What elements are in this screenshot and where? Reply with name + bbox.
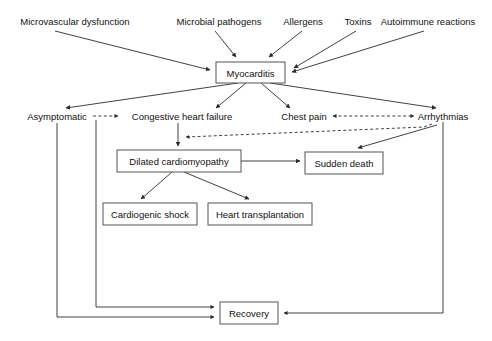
node-recovery-label: Recovery xyxy=(229,308,269,319)
edge-arrhythmias-to-dcm xyxy=(186,124,432,137)
node-dilated-cardiomyopathy-label: Dilated cardiomyopathy xyxy=(129,156,229,167)
label-asymptomatic: Asymptomatic xyxy=(27,111,87,122)
node-cardiogenic-shock-label: Cardiogenic shock xyxy=(111,209,189,220)
edge-toxins-to-myocarditis xyxy=(294,31,356,68)
edge-allergens-to-myocarditis xyxy=(269,31,302,57)
label-autoimmune-reactions: Autoimmune reactions xyxy=(381,16,476,27)
edge-microbial-to-myocarditis xyxy=(215,31,236,57)
edge-myocarditis-to-arrhythmias xyxy=(270,83,436,108)
label-allergens: Allergens xyxy=(283,16,323,27)
label-arrhythmias: Arrhythmias xyxy=(418,111,469,122)
flowchart-canvas: Microvascular dysfunction Microbial path… xyxy=(0,0,492,341)
node-sudden-death-label: Sudden death xyxy=(314,158,373,169)
flowchart-svg: Microvascular dysfunction Microbial path… xyxy=(0,0,492,341)
label-toxins: Toxins xyxy=(345,16,372,27)
edge-myocarditis-to-chf xyxy=(216,83,246,108)
edge-myocarditis-to-asymptomatic xyxy=(66,83,238,108)
label-congestive-heart-failure: Congestive heart failure xyxy=(132,111,232,122)
edge-dcm-to-heart-transplantation xyxy=(184,172,249,199)
edge-autoimmune-to-myocarditis xyxy=(292,31,424,72)
edge-microvascular-to-myocarditis xyxy=(55,31,210,70)
edge-myocarditis-to-chest-pain xyxy=(261,83,290,108)
edge-dcm-to-cardiogenic-shock xyxy=(141,172,172,199)
node-myocarditis-label: Myocarditis xyxy=(226,68,274,79)
label-microvascular-dysfunction: Microvascular dysfunction xyxy=(20,16,129,27)
label-microbial-pathogens: Microbial pathogens xyxy=(176,16,261,27)
label-chest-pain: Chest pain xyxy=(281,111,326,122)
node-heart-transplantation-label: Heart transplantation xyxy=(216,209,304,220)
